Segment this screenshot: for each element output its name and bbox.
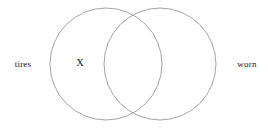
venn-diagram-graphic xyxy=(0,0,268,128)
venn-label-left: tires xyxy=(15,60,32,69)
venn-circle-right xyxy=(104,8,216,120)
venn-diagram-canvas: tires worn X xyxy=(0,0,268,128)
venn-label-right: worn xyxy=(237,60,256,69)
venn-marker-x: X xyxy=(76,58,84,69)
venn-circle-left xyxy=(50,8,162,120)
